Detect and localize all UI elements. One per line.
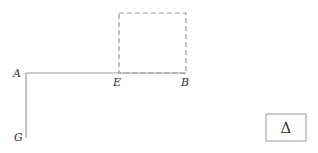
delta-symbol: Δ xyxy=(281,119,292,137)
label-b: B xyxy=(180,76,189,89)
label-a: A xyxy=(12,67,21,80)
label-g: G xyxy=(14,131,23,144)
dashed-square xyxy=(119,13,186,73)
geometry-diagram: A E B G Δ xyxy=(0,0,318,153)
label-e: E xyxy=(112,76,121,89)
